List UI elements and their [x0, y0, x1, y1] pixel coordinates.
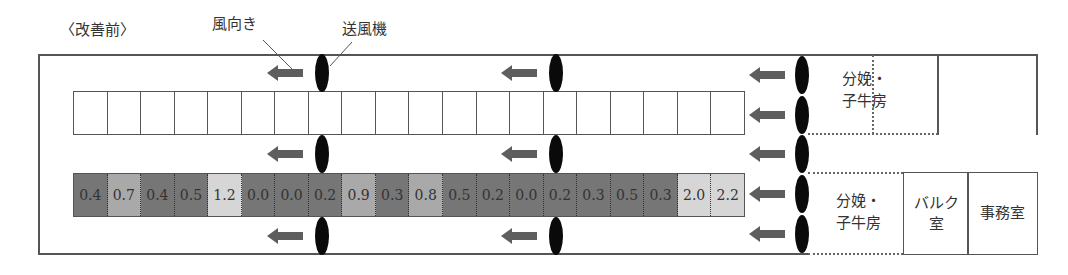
wind-arrow-left-icon: [501, 146, 537, 162]
stall-cell-value: 0.2: [477, 174, 511, 216]
stall-cell-value: 0.0: [275, 174, 309, 216]
stall-cell-value: 0.5: [443, 174, 477, 216]
stall-cell-value: 0.4: [141, 174, 175, 216]
fan-icon: [315, 217, 329, 255]
stall-cell: [175, 92, 209, 134]
stall-cell-value: 0.3: [644, 174, 678, 216]
stall-cell: [409, 92, 443, 134]
calving-room-top-bottom-edge: [808, 133, 938, 135]
stall-row-top: [73, 91, 745, 135]
stall-cell: [74, 92, 108, 134]
wind-arrow-left-icon: [749, 67, 785, 83]
wind-arrow-left-icon: [749, 107, 785, 123]
stall-cell-value: 0.7: [108, 174, 142, 216]
stall-cell-value: 0.3: [376, 174, 410, 216]
stall-cell-value: 0.4: [74, 174, 108, 216]
stall-cell-value: 0.3: [577, 174, 611, 216]
stall-cell-value: 0.5: [611, 174, 645, 216]
bulk-room: バルク 室: [903, 172, 969, 255]
wind-arrow-left-icon: [267, 65, 303, 81]
stall-cell: [644, 92, 678, 134]
stall-cell: [443, 92, 477, 134]
stall-cell: [477, 92, 511, 134]
wind-arrow-left-icon: [501, 65, 537, 81]
fan-icon: [795, 96, 809, 134]
calving-room-top-label: 分娩・ 子牛房: [824, 68, 904, 112]
stall-cell: [309, 92, 343, 134]
wind-arrow-left-icon: [749, 146, 785, 162]
stall-cell-value: 2.0: [678, 174, 712, 216]
fan-icon: [549, 54, 563, 92]
stall-cell: [577, 92, 611, 134]
stall-cell-value: 2.2: [711, 174, 744, 216]
wind-arrow-left-icon: [501, 228, 537, 244]
fan-icon: [795, 215, 809, 253]
calving-room-bottom-top-edge: [808, 172, 903, 174]
stall-row-bottom: 0.40.70.40.51.20.00.00.20.90.30.80.50.20…: [73, 173, 745, 217]
fan-icon: [549, 217, 563, 255]
stall-cell-value: 1.2: [208, 174, 242, 216]
stall-cell-value: 0.2: [309, 174, 343, 216]
stall-cell-value: 0.0: [242, 174, 276, 216]
stall-cell-value: 0.0: [510, 174, 544, 216]
stall-cell: [711, 92, 744, 134]
stall-cell: [208, 92, 242, 134]
stall-cell: [342, 92, 376, 134]
calving-room-bottom-bottom-edge: [808, 253, 903, 255]
stall-cell: [141, 92, 175, 134]
fan-icon: [315, 135, 329, 173]
stall-cell: [544, 92, 578, 134]
stall-cell-value: 0.9: [342, 174, 376, 216]
wind-arrow-left-icon: [749, 226, 785, 242]
stall-cell: [242, 92, 276, 134]
stall-cell: [376, 92, 410, 134]
fan-icon: [795, 56, 809, 94]
stall-cell: [510, 92, 544, 134]
stall-cell: [108, 92, 142, 134]
wind-arrow-left-icon: [267, 146, 303, 162]
office-room: 事務室: [967, 172, 1038, 255]
stall-cell: [611, 92, 645, 134]
fan-icon: [795, 175, 809, 213]
stall-cell-value: 0.5: [175, 174, 209, 216]
calving-room-bottom-label: 分娩・ 子牛房: [818, 190, 898, 234]
wind-arrow-left-icon: [267, 228, 303, 244]
fan-icon: [315, 54, 329, 92]
stall-cell: [275, 92, 309, 134]
stall-cell-value: 0.2: [544, 174, 578, 216]
fan-icon: [795, 135, 809, 173]
wind-arrow-left-icon: [749, 186, 785, 202]
stall-cell-value: 0.8: [409, 174, 443, 216]
fan-icon: [549, 135, 563, 173]
stall-cell: [678, 92, 712, 134]
